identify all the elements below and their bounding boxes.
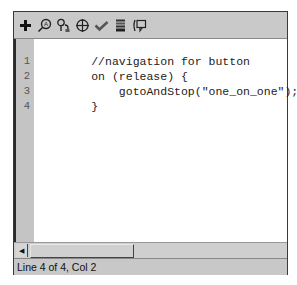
line-number: 1 xyxy=(16,54,30,69)
scrollbar-thumb[interactable] xyxy=(30,244,134,258)
line-number: 3 xyxy=(16,84,30,99)
insert-target-path-icon[interactable] xyxy=(74,17,91,34)
code-line: 1//navigation for button xyxy=(34,39,287,54)
auto-format-icon[interactable] xyxy=(112,17,129,34)
code-line: 3 gotoAndStop("one_on_one"); xyxy=(34,69,287,84)
toolbar: A xyxy=(14,12,287,39)
scroll-left-arrow-icon[interactable]: ◀ xyxy=(16,244,28,257)
status-bar: Line 4 of 4, Col 2 xyxy=(14,258,287,275)
svg-text:A: A xyxy=(44,21,48,27)
add-statement-icon[interactable] xyxy=(17,17,34,34)
show-code-hint-icon[interactable] xyxy=(131,17,148,34)
horizontal-scrollbar[interactable]: ◀ xyxy=(14,242,287,258)
actions-panel: A 1//navigation for button 2on (release)… xyxy=(13,11,288,275)
replace-icon[interactable] xyxy=(55,17,72,34)
line-number: 4 xyxy=(16,99,30,114)
check-syntax-icon[interactable] xyxy=(93,17,110,34)
code-text: } xyxy=(89,100,98,113)
code-line: 2on (release) { xyxy=(34,54,287,69)
line-number: 2 xyxy=(16,69,30,84)
code-area[interactable]: 1//navigation for button 2on (release) {… xyxy=(34,39,287,242)
find-icon[interactable]: A xyxy=(36,17,53,34)
script-editor[interactable]: 1//navigation for button 2on (release) {… xyxy=(14,39,287,242)
code-line: 4} xyxy=(34,84,287,99)
